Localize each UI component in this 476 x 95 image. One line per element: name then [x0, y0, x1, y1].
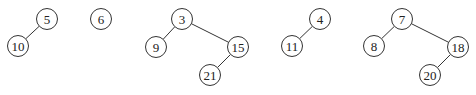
- node-label: 9: [153, 40, 160, 55]
- tree-edge: [191, 24, 228, 43]
- tree-edge: [163, 27, 175, 40]
- node-label: 6: [98, 12, 105, 27]
- node-label: 21: [204, 68, 217, 83]
- node-label: 5: [44, 12, 51, 27]
- tree-node: 8: [364, 36, 385, 57]
- tree-node: 4: [310, 9, 331, 30]
- tree-node: 20: [420, 65, 441, 86]
- tree-node: 15: [228, 37, 249, 58]
- node-label: 3: [179, 12, 186, 27]
- tree-edge: [26, 26, 40, 39]
- tree-node: 10: [8, 36, 29, 57]
- tree-node: 21: [200, 65, 221, 86]
- node-label: 20: [424, 68, 437, 83]
- nodes-layer: 5106391521411781820: [8, 9, 469, 86]
- tree-node: 7: [392, 9, 413, 30]
- tree-node: 3: [172, 9, 193, 30]
- tree-edge: [411, 24, 448, 43]
- node-label: 7: [399, 12, 406, 27]
- node-label: 8: [371, 39, 378, 54]
- tree-forest-diagram: 5106391521411781820: [0, 0, 476, 95]
- tree-node: 6: [91, 9, 112, 30]
- tree-node: 5: [37, 9, 58, 30]
- tree-edge: [382, 26, 395, 38]
- tree-edge: [217, 54, 230, 67]
- node-label: 4: [317, 12, 324, 27]
- node-label: 15: [232, 40, 245, 55]
- tree-node: 18: [448, 37, 469, 58]
- tree-edge: [300, 26, 313, 38]
- tree-edge: [437, 54, 450, 67]
- node-label: 10: [12, 39, 25, 54]
- tree-node: 11: [282, 36, 303, 57]
- node-label: 11: [286, 39, 299, 54]
- node-label: 18: [452, 40, 465, 55]
- tree-node: 9: [146, 37, 167, 58]
